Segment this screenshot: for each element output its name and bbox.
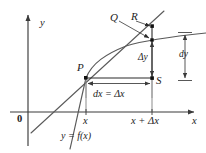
point-label-p: P (77, 62, 84, 73)
point-marker-r (150, 24, 154, 28)
point-marker-p (84, 76, 88, 80)
figure-canvas (0, 0, 206, 153)
differential-figure: y x 0 x x + Δx P Q R S y = f(x) dx = Δx … (0, 0, 206, 153)
dx-equals-delta-x-label: dx = Δx (93, 89, 125, 99)
delta-y-label: Δy (138, 53, 148, 63)
tick-label-x-plus-delta-x: x + Δx (131, 116, 159, 127)
point-label-r: R (131, 11, 138, 22)
point-marker-q (150, 38, 153, 41)
point-label-q: Q (110, 12, 118, 23)
y-axis-label: y (40, 18, 45, 29)
x-axis-label: x (192, 116, 197, 127)
origin-label: 0 (17, 114, 22, 125)
curve-equation-label: y = f(x) (61, 131, 91, 141)
point-label-s: S (156, 75, 162, 86)
point-marker-s (150, 76, 154, 80)
dy-label: dy (179, 50, 188, 60)
leader-line-r (136, 21, 150, 26)
tick-label-x: x (83, 116, 88, 127)
